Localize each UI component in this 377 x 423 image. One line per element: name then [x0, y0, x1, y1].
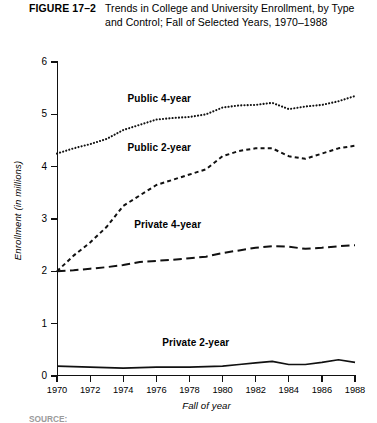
figure-caption: FIGURE 17–2 Trends in College and Univer… [29, 1, 365, 29]
x-axis-title: Fall of year [57, 400, 356, 411]
figure-page: FIGURE 17–2 Trends in College and Univer… [0, 0, 377, 423]
series-label-public-2-year: Public 2-year [127, 142, 193, 153]
series-line-public-4-year [57, 96, 355, 154]
series-label-public-4-year: Public 4-year [127, 93, 193, 104]
series-label-private-4-year: Private 4-year [133, 219, 202, 230]
enrollment-line-chart: Enrollment (in millions) Fall of year 01… [0, 55, 377, 400]
series-line-private-4-year [57, 245, 355, 271]
series-line-public-2-year [57, 146, 355, 272]
figure-number: FIGURE 17–2 [29, 1, 96, 15]
figure-title: Trends in College and University Enrollm… [105, 1, 365, 29]
series-line-private-2-year [57, 360, 355, 368]
source-note: SOURCE: [29, 414, 359, 423]
series-label-private-2-year: Private 2-year [161, 337, 230, 348]
